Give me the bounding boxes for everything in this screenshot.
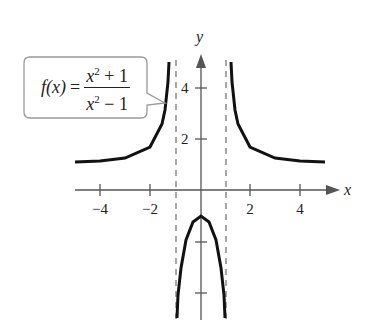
x-tick-label: −4 <box>92 201 108 217</box>
curve-right-branch <box>231 62 325 162</box>
formula-fraction: x2 + 1 x2 − 1 <box>84 61 130 114</box>
x-tick-label: −2 <box>142 201 158 217</box>
formula-numerator: x2 + 1 <box>84 61 130 88</box>
y-tick-label: 2 <box>181 131 189 147</box>
function-formula: f(x) = x2 + 1 x2 − 1 <box>24 57 147 118</box>
x-tick-label: 4 <box>296 201 304 217</box>
y-axis-arrow-icon <box>196 54 206 68</box>
formula-lhs: f(x) <box>41 77 66 98</box>
x-axis-label: x <box>343 181 351 198</box>
formula-denominator: x2 − 1 <box>84 88 130 114</box>
y-axis-label: y <box>194 28 204 46</box>
x-axis-arrow-icon <box>326 185 340 195</box>
y-tick-label: 4 <box>181 80 189 96</box>
x-tick-label: 2 <box>246 201 254 217</box>
formula-equals: = <box>70 77 80 98</box>
graph-canvas: −4 −2 2 4 4 2 x y <box>0 0 370 323</box>
